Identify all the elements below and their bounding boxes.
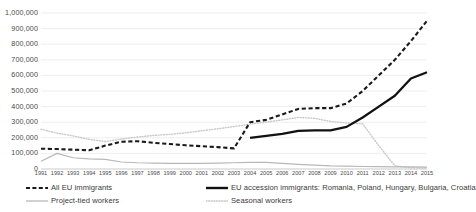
- x-tick-label: 1998: [147, 170, 159, 176]
- x-tick-label: 2002: [212, 170, 224, 176]
- x-tick-label: 2007: [292, 170, 304, 176]
- x-tick-label: 2005: [260, 170, 272, 176]
- series-line: [41, 21, 427, 150]
- x-tick-label: 2015: [421, 170, 433, 176]
- legend-item-all-eu-immigrants[interactable]: All EU immigrants: [26, 184, 112, 192]
- chart-legend: All EU immigrants EU accession immigrant…: [0, 183, 430, 212]
- x-tick-label: 2000: [180, 170, 192, 176]
- x-tick-label: 2009: [324, 170, 336, 176]
- x-tick-label: 2013: [389, 170, 401, 176]
- legend-swatch-dashed-icon: [26, 184, 48, 192]
- x-tick-label: 2008: [308, 170, 320, 176]
- series-line: [41, 153, 427, 167]
- x-tick-label: 2014: [405, 170, 417, 176]
- x-tick-label: 1992: [51, 170, 63, 176]
- legend-label-seasonal-workers: Seasonal workers: [231, 197, 292, 205]
- plot-area: [0, 0, 430, 180]
- x-tick-label: 1996: [115, 170, 127, 176]
- series-line: [41, 118, 427, 169]
- x-tick-label: 2001: [196, 170, 208, 176]
- x-tick-label: 1997: [131, 170, 143, 176]
- x-axis-tick-labels: 1991199219931994199519961997199819992000…: [41, 170, 427, 182]
- x-tick-label: 1991: [35, 170, 47, 176]
- x-tick-label: 1994: [83, 170, 95, 176]
- legend-label-eu-accession-immigrants: EU accession immigrants: Romania, Poland…: [231, 184, 476, 192]
- x-tick-label: 2011: [357, 170, 369, 176]
- plot-svg: [0, 0, 430, 180]
- x-tick-label: 1995: [99, 170, 111, 176]
- legend-label-project-tied-workers: Project-tied workers: [51, 197, 119, 205]
- x-tick-label: 2012: [373, 170, 385, 176]
- legend-item-eu-accession-immigrants[interactable]: EU accession immigrants: Romania, Poland…: [206, 184, 476, 192]
- x-tick-label: 2006: [276, 170, 288, 176]
- x-tick-label: 2004: [244, 170, 256, 176]
- x-tick-label: 2003: [228, 170, 240, 176]
- x-tick-label: 2010: [340, 170, 352, 176]
- legend-item-project-tied-workers[interactable]: Project-tied workers: [26, 197, 119, 205]
- legend-swatch-dotted-icon: [206, 197, 228, 205]
- legend-swatch-solid-dark-icon: [206, 184, 228, 192]
- x-tick-label: 1993: [67, 170, 79, 176]
- legend-swatch-solid-light-icon: [26, 197, 48, 205]
- x-tick-label: 1999: [163, 170, 175, 176]
- legend-label-all-eu-immigrants: All EU immigrants: [51, 184, 112, 192]
- legend-item-seasonal-workers[interactable]: Seasonal workers: [206, 197, 292, 205]
